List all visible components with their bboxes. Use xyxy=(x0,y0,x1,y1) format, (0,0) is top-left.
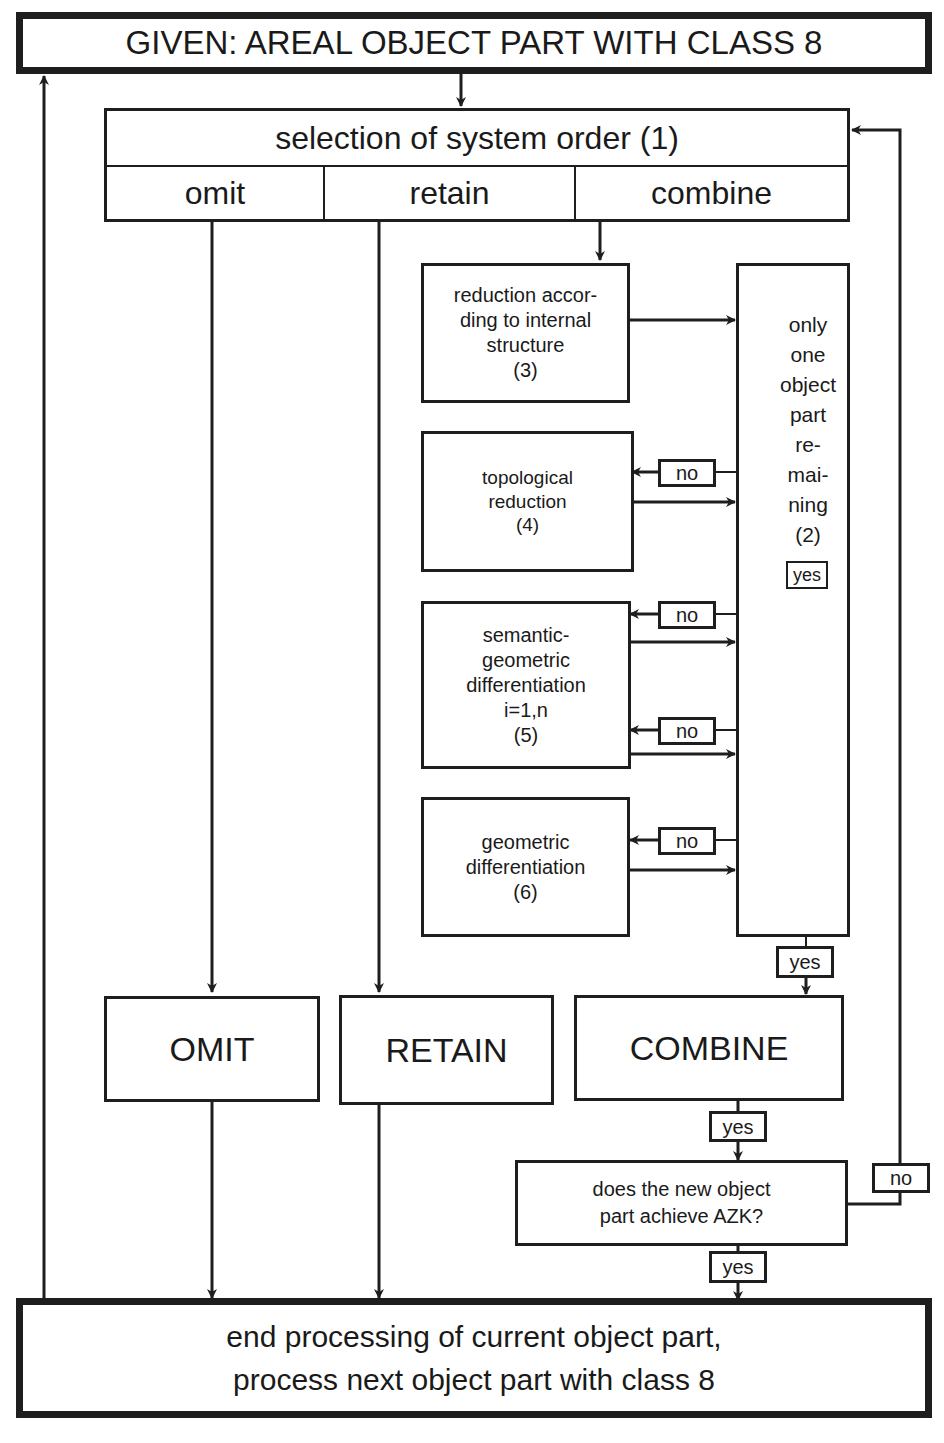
outcome-omit-label: OMIT xyxy=(170,1030,255,1069)
decision-azk-label: does the new object part achieve AZK? xyxy=(593,1176,771,1230)
end-processing-label: end processing of current object part, p… xyxy=(226,1315,721,1402)
no-label-azk: no xyxy=(872,1163,930,1193)
option-retain-label: retain xyxy=(409,175,489,212)
step-5-box: semantic- geometric differentiation i=1,… xyxy=(421,601,631,769)
given-title-box: GIVEN: AREAL OBJECT PART WITH CLASS 8 xyxy=(16,12,932,74)
option-combine[interactable]: combine xyxy=(576,167,847,219)
option-combine-label: combine xyxy=(651,175,772,212)
outcome-retain-box: RETAIN xyxy=(339,995,554,1105)
step-5-label: semantic- geometric differentiation i=1,… xyxy=(466,623,586,748)
step-6-box: geometric differentiation (6) xyxy=(421,797,630,937)
yes-label-to-combine: yes xyxy=(776,946,834,978)
step-3-box: reduction accor- ding to internal struct… xyxy=(421,263,630,403)
decision-remaining-label: only one object part re- mai- ning (2) xyxy=(780,310,836,550)
decision-remaining-box: only one object part re- mai- ning (2) xyxy=(736,263,850,937)
option-omit[interactable]: omit xyxy=(107,167,325,219)
step-6-label: geometric differentiation (6) xyxy=(466,830,586,905)
step-4-box: topological reduction (4) xyxy=(421,431,634,572)
outcome-combine-box: COMBINE xyxy=(574,995,844,1101)
option-omit-label: omit xyxy=(185,175,245,212)
outcome-omit-box: OMIT xyxy=(104,996,320,1102)
no-label-step5b: no xyxy=(658,717,716,745)
selection-box: selection of system order (1) omit retai… xyxy=(104,108,850,222)
step-3-label: reduction accor- ding to internal struct… xyxy=(454,283,597,383)
option-retain[interactable]: retain xyxy=(325,167,576,219)
outcome-combine-label: COMBINE xyxy=(630,1029,789,1068)
selection-header-text: selection of system order (1) xyxy=(275,120,679,157)
given-title: GIVEN: AREAL OBJECT PART WITH CLASS 8 xyxy=(126,24,823,62)
selection-header: selection of system order (1) xyxy=(107,111,847,167)
end-processing-box: end processing of current object part, p… xyxy=(16,1298,932,1418)
yes-label-azk: yes xyxy=(709,1251,767,1283)
decision-azk-box: does the new object part achieve AZK? xyxy=(515,1160,848,1246)
step-4-label: topological reduction (4) xyxy=(482,466,573,537)
no-label-step6: no xyxy=(658,827,716,855)
no-label-step5a: no xyxy=(658,601,716,629)
yes-label-remaining: yes xyxy=(786,561,828,589)
yes-label-after-combine: yes xyxy=(709,1111,767,1142)
no-label-step4: no xyxy=(658,459,716,487)
outcome-retain-label: RETAIN xyxy=(385,1031,507,1070)
